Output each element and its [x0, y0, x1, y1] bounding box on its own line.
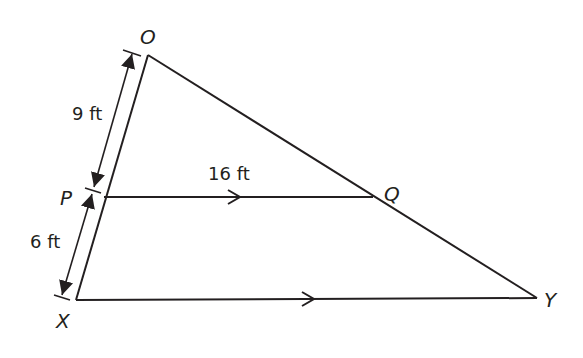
side-XY	[76, 298, 537, 300]
point-label-P: P	[60, 186, 73, 210]
measurement-OP: 9 ft	[72, 103, 102, 124]
point-label-Y: Y	[544, 288, 558, 312]
side-OY	[148, 55, 537, 298]
point-label-X: X	[55, 309, 71, 333]
tick-P	[85, 188, 101, 193]
measurement-PX: 6 ft	[30, 231, 60, 252]
side-OX	[76, 55, 148, 300]
point-label-Q: Q	[384, 182, 400, 206]
tick-X	[54, 295, 70, 300]
triangle-diagram: O P X Q Y 9 ft 6 ft 16 ft	[0, 0, 583, 358]
measurement-PQ: 16 ft	[208, 163, 250, 184]
point-label-O: O	[140, 25, 156, 49]
